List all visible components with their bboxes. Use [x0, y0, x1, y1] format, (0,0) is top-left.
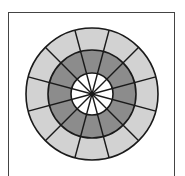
sector-wheel [0, 0, 185, 176]
center-point [90, 92, 94, 96]
